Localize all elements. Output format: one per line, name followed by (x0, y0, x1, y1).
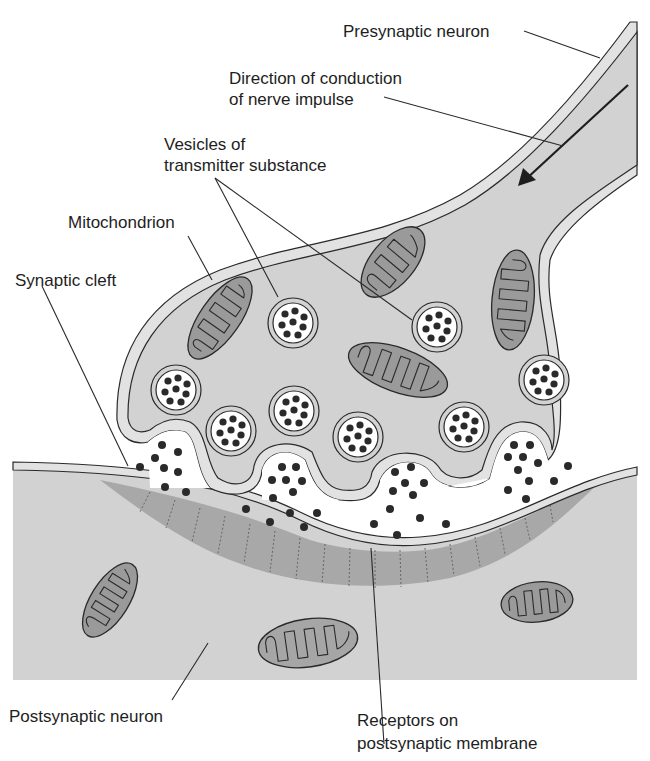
label-vesicles-line1: Vesicles of (164, 135, 246, 154)
label-synaptic-cleft: Synaptic cleft (15, 271, 116, 290)
label-receptors-line1: Receptors on (357, 711, 458, 730)
label-mitochondrion: Mitochondrion (68, 213, 175, 232)
label-direction-line1: Direction of conduction (229, 69, 402, 88)
label-postsynaptic-neuron: Postsynaptic neuron (9, 707, 163, 726)
vesicle (412, 302, 462, 352)
label-vesicles-line2: transmitter substance (164, 156, 327, 175)
vesicle (439, 402, 489, 452)
vesicle (206, 406, 256, 456)
label-receptors-line2: postsynaptic membrane (357, 734, 537, 753)
vesicle (519, 355, 569, 405)
label-direction-line2: of nerve impulse (229, 90, 354, 109)
vesicle (151, 365, 201, 415)
label-presynaptic-neuron: Presynaptic neuron (343, 22, 489, 41)
synapse-diagram: Presynaptic neuron Direction of conducti… (0, 0, 650, 761)
vesicle (333, 412, 383, 462)
presynaptic-neuron (117, 22, 637, 501)
vesicle (269, 386, 319, 436)
vesicle (268, 298, 318, 348)
